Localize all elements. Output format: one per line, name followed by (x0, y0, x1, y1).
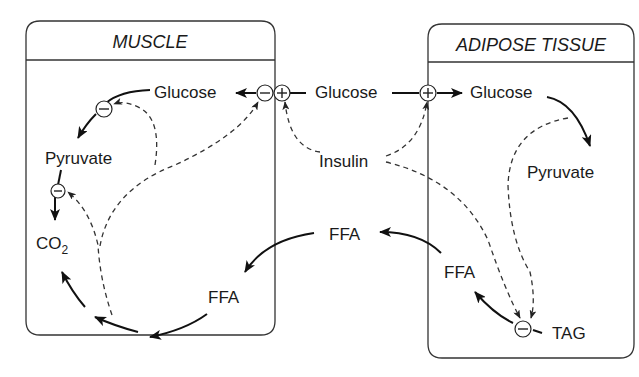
ffa-to-glucose-uptake-inhibit (100, 102, 258, 246)
ffa-oxidation-arrow-1 (150, 314, 207, 337)
metabolic-flux-arrows (55, 90, 590, 337)
insulin-to-adipose-uptake (386, 102, 427, 156)
pyruvate-oxidation-inhibit-node (51, 184, 65, 198)
ffa-release-arrow (380, 232, 441, 253)
lipolysis-inhibit-node (515, 321, 531, 337)
blood-glucose-label: Glucose (315, 83, 377, 102)
ffa-oxidation-arrow-3 (62, 272, 85, 307)
insulin-label: Insulin (319, 152, 368, 171)
glucose-to-lipolysis (508, 118, 568, 318)
ffa-oxidation-arrow-2 (95, 317, 138, 332)
muscle-pyruvate-label: Pyruvate (45, 149, 112, 168)
muscle-uptake-inhibit-node (257, 85, 273, 101)
adipose-title: ADIPOSE TISSUE (455, 35, 607, 55)
muscle-title: MUSCLE (112, 32, 188, 52)
adipose-uptake-stimulate-node (420, 85, 436, 101)
adipose-pyruvate-label: Pyruvate (527, 163, 594, 182)
adipose-ffa-label: FFA (444, 263, 476, 282)
regulator-nodes (51, 85, 531, 337)
glycolysis-muscle-line (106, 90, 150, 103)
ffa-to-pyruvate-oxidation-inhibit (68, 192, 112, 315)
ffa-uptake-arrow (245, 233, 314, 272)
insulin-to-lipolysis (386, 162, 520, 318)
muscle-glucose-label: Glucose (154, 83, 216, 102)
co2-label: CO2 (36, 234, 69, 257)
glycolysis-muscle-arrow (78, 114, 96, 138)
glucose-fatty-acid-cycle-diagram: MUSCLE ADIPOSE TISSUE (0, 0, 639, 377)
insulin-to-muscle-uptake (285, 102, 320, 152)
glycolysis-inhibit-node (96, 101, 112, 117)
lipolysis-arrow (475, 292, 513, 323)
regulatory-arrows (68, 102, 568, 318)
pyruvate-oxidation-line (58, 170, 61, 185)
adipose-compartment: ADIPOSE TISSUE (428, 24, 634, 358)
ffa-to-glycolysis-inhibit (114, 103, 157, 165)
blood-ffa-label: FFA (329, 225, 361, 244)
muscle-uptake-stimulate-node (274, 85, 290, 101)
glycolysis-adipose-arrow (547, 97, 590, 146)
tag-label: TAG (552, 324, 586, 343)
lipolysis-line (533, 330, 542, 333)
muscle-ffa-label: FFA (208, 288, 240, 307)
adipose-glucose-label: Glucose (470, 83, 532, 102)
